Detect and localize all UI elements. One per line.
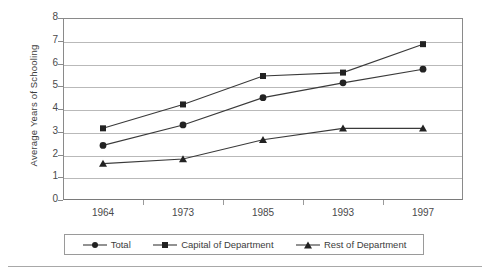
y-tick-label: 3 <box>18 126 58 136</box>
y-tick-mark <box>58 86 63 87</box>
triangle-marker-icon <box>295 240 321 250</box>
chart-figure: Average Years of Schooling Total Capital… <box>0 0 489 273</box>
data-point-capital-of-department-1997 <box>420 41 426 47</box>
series-line-total <box>103 69 423 145</box>
x-tick-mark <box>223 200 224 205</box>
x-tick-mark <box>383 200 384 205</box>
y-tick-mark <box>58 132 63 133</box>
y-tick-label: 0 <box>18 194 58 204</box>
circle-marker-icon <box>82 240 108 250</box>
legend-label-rest-of-department: Rest of Department <box>324 239 406 250</box>
series-line-capital-of-department <box>103 44 423 128</box>
x-tick-mark <box>143 200 144 205</box>
x-tick-mark <box>303 200 304 205</box>
data-point-capital-of-department-1993 <box>340 70 346 76</box>
data-point-capital-of-department-1964 <box>100 125 106 131</box>
data-point-total-1964 <box>100 142 107 149</box>
square-marker-icon <box>152 240 178 250</box>
x-tick-label-1964: 1964 <box>63 207 143 218</box>
legend-label-capital-of-department: Capital of Department <box>181 239 273 250</box>
data-point-capital-of-department-1973 <box>180 101 186 107</box>
y-tick-mark <box>58 64 63 65</box>
chart-legend: Total Capital of Department Rest of Depa… <box>64 234 424 255</box>
y-tick-mark <box>58 177 63 178</box>
y-tick-label: 6 <box>18 58 58 68</box>
legend-item-total[interactable]: Total <box>82 239 131 250</box>
y-tick-label: 4 <box>18 103 58 113</box>
x-tick-label-1997: 1997 <box>383 207 463 218</box>
x-tick-label-1985: 1985 <box>223 207 303 218</box>
y-tick-mark <box>58 41 63 42</box>
y-tick-label: 5 <box>18 80 58 90</box>
bottom-divider <box>8 266 482 267</box>
x-tick-label-1993: 1993 <box>303 207 383 218</box>
y-tick-label: 8 <box>18 12 58 22</box>
legend-item-capital-of-department[interactable]: Capital of Department <box>152 239 273 250</box>
data-point-total-1985 <box>260 94 267 101</box>
y-tick-mark <box>58 18 63 19</box>
y-tick-label: 7 <box>18 35 58 45</box>
y-tick-label: 1 <box>18 171 58 181</box>
data-point-total-1993 <box>340 79 347 86</box>
y-tick-mark <box>58 109 63 110</box>
series-layer <box>63 18 463 200</box>
y-tick-mark <box>58 155 63 156</box>
data-point-capital-of-department-1985 <box>260 73 266 79</box>
legend-label-total: Total <box>111 239 131 250</box>
data-point-total-1997 <box>420 66 427 73</box>
x-tick-label-1973: 1973 <box>143 207 223 218</box>
y-tick-label: 2 <box>18 149 58 159</box>
legend-item-rest-of-department[interactable]: Rest of Department <box>295 239 406 250</box>
data-point-total-1973 <box>180 122 187 129</box>
y-tick-mark <box>58 200 63 201</box>
